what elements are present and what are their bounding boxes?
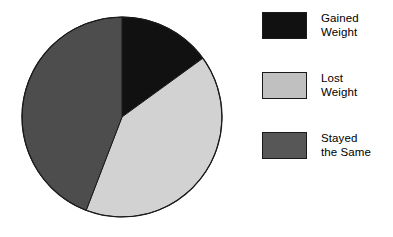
legend-swatch-lost-weight [262, 72, 307, 99]
legend-label-lost-weight: Lost Weight [321, 72, 357, 99]
chart-legend: Gained Weight Lost Weight Stayed the Sam… [262, 0, 393, 237]
legend-swatch-stayed-the-same [262, 132, 307, 159]
pie-chart-figure: Gained Weight Lost Weight Stayed the Sam… [0, 0, 393, 237]
legend-item-stayed-the-same: Stayed the Same [262, 132, 371, 159]
pie-svg [0, 0, 253, 237]
legend-item-gained-weight: Gained Weight [262, 12, 359, 39]
pie-slice-group [22, 17, 222, 217]
legend-item-lost-weight: Lost Weight [262, 72, 357, 99]
legend-label-gained-weight: Gained Weight [321, 12, 359, 39]
legend-swatch-gained-weight [262, 12, 307, 39]
pie-chart-plot [0, 0, 253, 237]
legend-label-stayed-the-same: Stayed the Same [321, 132, 371, 159]
